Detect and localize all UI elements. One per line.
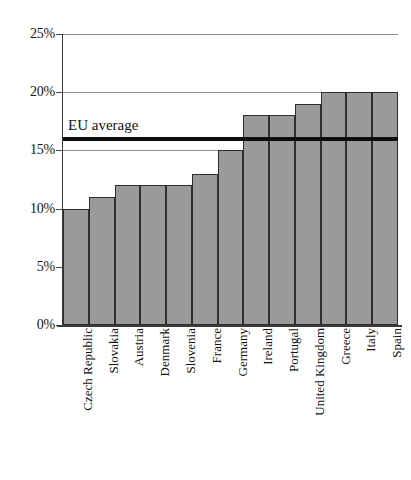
x-axis-category-label-text: Greece: [339, 328, 352, 365]
x-axis-category-label-text: France: [210, 328, 223, 363]
x-axis-category-label-text: Slovenia: [184, 328, 197, 374]
bars-group: [63, 34, 398, 325]
y-tick-label-10: 10%: [30, 202, 55, 216]
x-axis-category-label-text: Denmark: [158, 328, 171, 376]
x-axis-line: [57, 325, 402, 327]
bar: [192, 174, 218, 325]
y-tick-label-15: 15%: [30, 143, 55, 157]
x-axis-category-label: Greece: [339, 328, 352, 365]
x-axis-category-label: Germany: [236, 328, 249, 376]
x-axis-category-label: France: [210, 328, 223, 363]
x-axis-category-label-text: Italy: [364, 328, 377, 352]
bar: [218, 150, 244, 325]
x-axis-category-label: Slovenia: [184, 328, 197, 374]
x-axis-category-label-text: Germany: [236, 328, 249, 376]
bar: [372, 92, 398, 325]
x-axis-category-label: United Kingdom: [313, 328, 326, 416]
eu-average-label: EU average: [68, 118, 138, 133]
x-axis-category-label-text: Spain: [390, 328, 403, 358]
bar: [89, 197, 115, 325]
x-axis-category-label: Slovakia: [107, 328, 120, 374]
x-axis-category-label: Spain: [390, 328, 403, 358]
x-axis-category-label-text: Slovakia: [107, 328, 120, 374]
y-tick-label-25: 25%: [30, 27, 55, 41]
x-axis-category-label: Portugal: [287, 328, 300, 372]
bar: [321, 92, 347, 325]
eu-average-line: [63, 137, 398, 141]
bar: [166, 185, 192, 325]
bar-chart: 25% 20% 15% 10% 5% 0% EU average Czech R…: [0, 0, 411, 480]
y-axis-labels: 25% 20% 15% 10% 5% 0%: [0, 0, 55, 480]
x-axis-category-label: Austria: [132, 328, 145, 366]
bar: [63, 209, 89, 325]
y-tick-label-0: 0%: [37, 318, 55, 332]
bar: [243, 115, 269, 325]
y-tick-label-5: 5%: [37, 260, 55, 274]
x-axis-category-label: Czech Republic: [81, 328, 94, 411]
x-axis-category-label: Italy: [364, 328, 377, 352]
x-axis-category-label: Denmark: [158, 328, 171, 376]
bar: [346, 92, 372, 325]
x-axis-category-label-text: Portugal: [287, 328, 300, 372]
x-axis-category-labels: Czech RepublicSlovakiaAustriaDenmarkSlov…: [63, 328, 398, 478]
x-axis-category-label: Ireland: [261, 328, 274, 365]
y-tick-label-20: 20%: [30, 85, 55, 99]
bar: [269, 115, 295, 325]
bar: [140, 185, 166, 325]
x-axis-category-label-text: Ireland: [261, 328, 274, 365]
x-axis-category-label-text: United Kingdom: [313, 328, 326, 416]
bar: [115, 185, 141, 325]
x-axis-category-label-text: Czech Republic: [81, 328, 94, 411]
x-axis-category-label-text: Austria: [132, 328, 145, 366]
